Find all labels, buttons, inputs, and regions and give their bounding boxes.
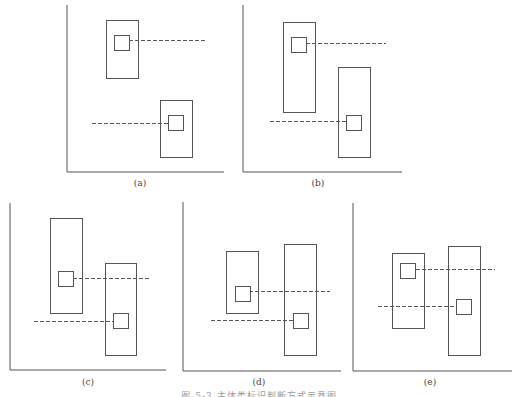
marker-square [457,300,472,315]
range-box [339,68,371,158]
range-box [51,219,83,314]
range-box [285,245,317,356]
marker-square [114,314,129,329]
panel-axes [183,202,341,371]
range-box [106,264,137,356]
panel-axes [10,203,166,370]
marker-square [169,116,184,131]
panel-label: (e) [424,377,436,387]
marker-square [401,264,416,279]
marker-square [347,116,362,131]
marker-square [115,36,130,51]
panel-label: (d) [253,377,266,387]
panel-axes [67,5,224,172]
figure-canvas [0,0,518,397]
marker-square [294,314,309,329]
panel-label: (c) [82,377,94,387]
panel-axes [353,203,512,371]
panel-label: (b) [312,178,325,188]
marker-square [292,38,307,53]
marker-square [236,287,251,302]
panel-axes [243,5,402,172]
panel-label: (a) [134,178,146,188]
marker-square [59,272,74,287]
range-box [284,23,316,113]
figure-caption: 图 5-3 主体类标识判断方式示意图 [181,389,336,397]
range-box [227,252,259,314]
